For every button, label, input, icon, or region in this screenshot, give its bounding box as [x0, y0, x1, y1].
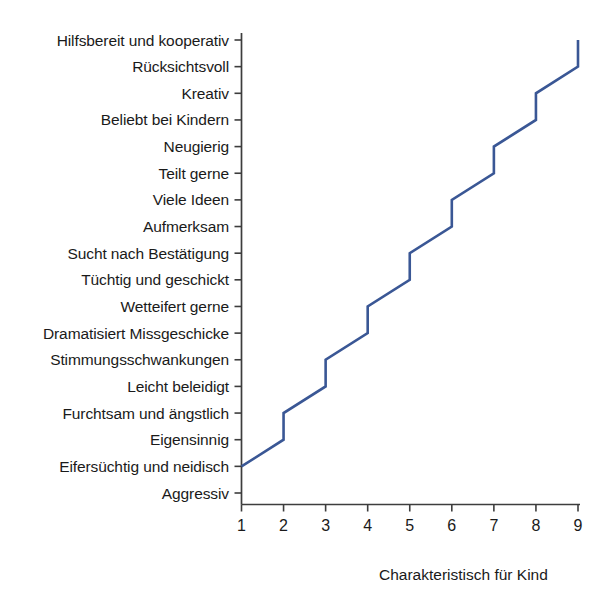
y-axis-category-label: Eifersüchtig und neidisch: [59, 459, 229, 475]
y-axis-category-label: Furchtsam und ängstlich: [62, 406, 229, 422]
x-axis-tick-label: 9: [574, 518, 583, 534]
y-axis-category-label: Dramatisiert Missgeschicke: [43, 326, 229, 342]
y-axis-label-list: Hilfsbereit und kooperativRücksichtsvoll…: [0, 0, 229, 609]
x-axis-tick-label: 8: [531, 518, 540, 534]
y-axis-category-label: Rücksichtsvoll: [132, 59, 229, 75]
y-axis-category-label: Stimmungsschwankungen: [50, 352, 229, 368]
x-axis-ticks: [242, 505, 579, 512]
x-axis-tick-label: 3: [321, 518, 330, 534]
x-axis-tick-label: 4: [363, 518, 372, 534]
x-axis-title: Charakteristisch für Kind: [379, 567, 548, 583]
x-axis-tick-label: 2: [279, 518, 288, 534]
y-axis-ticks: [235, 40, 242, 493]
y-axis-category-label: Aufmerksam: [143, 219, 229, 235]
y-axis-category-label: Wetteifert gerne: [121, 299, 229, 315]
y-axis-category-label: Viele Ideen: [153, 192, 229, 208]
y-axis-category-label: Teilt gerne: [159, 166, 229, 182]
y-axis-category-label: Aggressiv: [162, 486, 229, 502]
y-axis-category-label: Kreativ: [181, 86, 229, 102]
y-axis-category-label: Tüchtig und geschickt: [81, 272, 229, 288]
x-axis-tick-label: 7: [489, 518, 498, 534]
x-axis-tick-label: 6: [447, 518, 456, 534]
y-axis-category-label: Eigensinnig: [150, 432, 229, 448]
y-axis-category-label: Neugierig: [164, 139, 229, 155]
x-axis-tick-label: 1: [237, 518, 246, 534]
y-axis-category-label: Beliebt bei Kindern: [101, 112, 229, 128]
x-axis-tick-label: 5: [405, 518, 414, 534]
step-line-series: [242, 40, 579, 466]
chart-container: Hilfsbereit und kooperativRücksichtsvoll…: [0, 0, 605, 609]
y-axis-category-label: Sucht nach Bestätigung: [67, 246, 229, 262]
y-axis-category-label: Hilfsbereit und kooperativ: [57, 33, 229, 49]
y-axis-category-label: Leicht beleidigt: [127, 379, 229, 395]
